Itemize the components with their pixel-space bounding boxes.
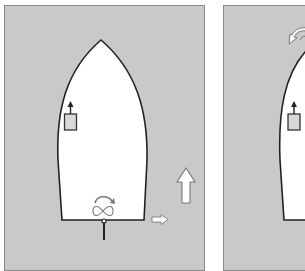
stern-sideways-arrow-icon [152,215,168,225]
forward-motion-arrow-icon [177,168,195,203]
rudder-post-icon [102,219,106,223]
helm-station-icon [288,114,300,130]
hull [280,52,305,220]
helm-station-icon [65,114,77,130]
right-boat [280,28,305,220]
left-boat [58,40,195,240]
diagram-canvas [0,0,305,271]
bow-swing-arrow-icon [289,28,305,44]
